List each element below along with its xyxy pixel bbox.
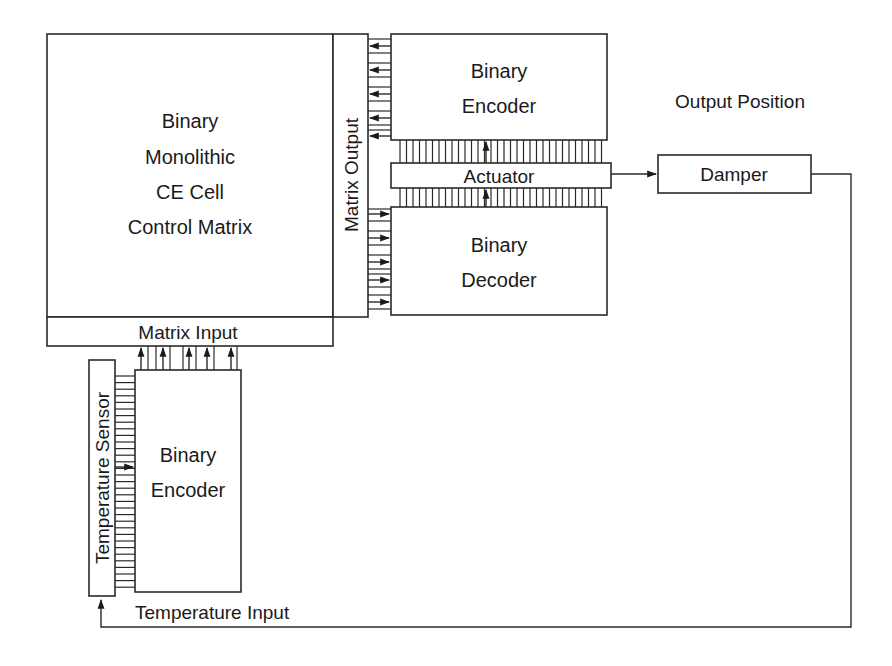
temperature-sensor-block: Temperature Sensor [89, 360, 115, 596]
decoder-to-actuator-bus [400, 188, 602, 207]
control-matrix-line-4: Control Matrix [128, 216, 252, 238]
decoder-line-1: Binary [471, 234, 528, 256]
matrix-output-to-decoder-bus [368, 209, 391, 309]
sensor-to-encoder-bus [115, 376, 135, 587]
matrix-output-block: Matrix Output [333, 34, 368, 317]
control-system-block-diagram: Binary Monolithic CE Cell Control Matrix… [0, 0, 892, 666]
temperature-input-label: Temperature Input [135, 602, 290, 623]
actuator-block: Actuator [391, 163, 611, 188]
control-matrix-line-2: Monolithic [145, 146, 235, 168]
matrix-input-label: Matrix Input [138, 322, 238, 343]
matrix-input-block: Matrix Input [47, 317, 333, 346]
temperature-sensor-label: Temperature Sensor [92, 391, 113, 564]
matrix-output-label: Matrix Output [341, 117, 362, 232]
input-binary-encoder-block: Binary Encoder [135, 370, 241, 592]
encoder-to-matrix-output-bus [368, 39, 391, 136]
actuator-label: Actuator [464, 166, 535, 187]
output-encoder-line-2: Encoder [462, 95, 537, 117]
damper-block: Damper [658, 155, 811, 193]
actuator-to-encoder-bus [400, 140, 602, 163]
decoder-line-2: Decoder [461, 269, 537, 291]
damper-label: Damper [700, 164, 768, 185]
output-binary-encoder-block: Binary Encoder [391, 34, 607, 140]
binary-decoder-block: Binary Decoder [391, 207, 607, 315]
output-position-label: Output Position [675, 91, 805, 112]
control-matrix-line-3: CE Cell [156, 181, 224, 203]
input-encoder-line-1: Binary [160, 444, 217, 466]
control-matrix-block: Binary Monolithic CE Cell Control Matrix [47, 34, 333, 317]
input-encoder-line-2: Encoder [151, 479, 226, 501]
output-encoder-line-1: Binary [471, 60, 528, 82]
encoder-to-matrix-input-bus [141, 346, 237, 370]
control-matrix-line-1: Binary [162, 110, 219, 132]
